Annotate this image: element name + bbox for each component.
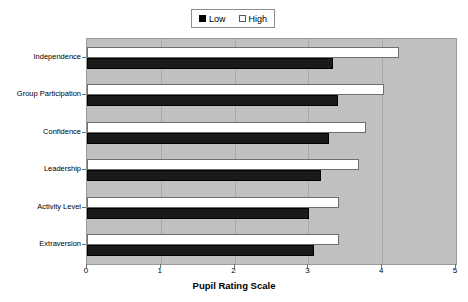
x-axis-tick-label: 3 (305, 266, 309, 276)
legend-label-high: High (249, 14, 268, 24)
y-axis-label: Leadership (44, 164, 81, 173)
gridline (235, 39, 236, 264)
gridline (161, 39, 162, 264)
y-axis-label: Group Participation (17, 89, 81, 98)
filled-square-icon (199, 15, 206, 22)
bar-high (87, 159, 359, 170)
bar-low (87, 208, 309, 219)
bar-low (87, 245, 314, 256)
bar-high (87, 122, 366, 133)
y-axis-label: Activity Level (37, 202, 81, 211)
bar-high (87, 84, 384, 95)
plot-area (86, 38, 457, 265)
bar-low (87, 95, 338, 106)
bar-low (87, 133, 329, 144)
empty-square-icon (239, 15, 246, 22)
bar-high (87, 47, 399, 58)
legend-entry-low: Low (199, 14, 226, 24)
x-axis-tick-label: 2 (231, 266, 235, 276)
x-axis-tick-label: 1 (158, 266, 162, 276)
x-axis-tick-label: 0 (84, 266, 88, 276)
x-axis-tick-label: 4 (379, 266, 383, 276)
x-axis-labels: 012345 (0, 266, 468, 280)
y-axis: IndependenceGroup ParticipationConfidenc… (0, 38, 84, 263)
y-axis-label: Confidence (43, 127, 81, 136)
chart-legend: Low High (191, 9, 275, 28)
legend-label-low: Low (209, 14, 226, 24)
x-axis-tick-label: 5 (453, 266, 457, 276)
bar-low (87, 58, 333, 69)
y-axis-label: Extraversion (39, 239, 81, 248)
gridline (308, 39, 309, 264)
bar-low (87, 170, 321, 181)
bar-chart: Low High IndependenceGroup Participation… (0, 0, 468, 302)
bar-high (87, 234, 339, 245)
bar-high (87, 197, 339, 208)
y-axis-label: Independence (33, 52, 81, 61)
gridline (382, 39, 383, 264)
x-axis-title: Pupil Rating Scale (0, 280, 468, 291)
legend-entry-high: High (239, 14, 268, 24)
